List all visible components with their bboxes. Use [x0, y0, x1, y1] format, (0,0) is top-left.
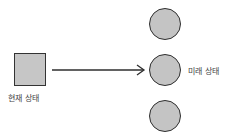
future-state-circle-bottom: [149, 100, 181, 132]
future-state-circle-top: [149, 8, 181, 40]
future-state-label: 미래 상태: [188, 65, 219, 76]
future-state-circle-middle: [149, 54, 181, 86]
